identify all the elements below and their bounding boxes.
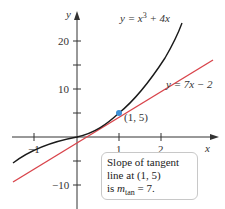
y-tick-label: 10: [58, 83, 70, 95]
tangent-point: [116, 110, 122, 116]
x-axis-label: x: [204, 142, 210, 154]
callout-line-3: is mtan = 7.: [107, 182, 192, 199]
x-axis-arrow-icon: [210, 134, 219, 140]
callout-line-2: line at (1, 5): [107, 169, 192, 182]
tangent-equation-label: y = 7x − 2: [165, 78, 213, 90]
y-axis-label: y: [65, 8, 71, 20]
y-tick-label: 20: [58, 35, 70, 47]
y-tick-label: −10: [52, 179, 70, 191]
callout-line-1: Slope of tangent: [107, 156, 192, 169]
cubic-curve: [13, 23, 182, 163]
curve-equation-label: y = x3 + 4x: [119, 11, 170, 24]
point-label: (1, 5): [124, 111, 148, 124]
y-axis-arrow-icon: [74, 11, 80, 20]
slope-callout-box: Slope of tangent line at (1, 5) is mtan …: [101, 152, 198, 200]
